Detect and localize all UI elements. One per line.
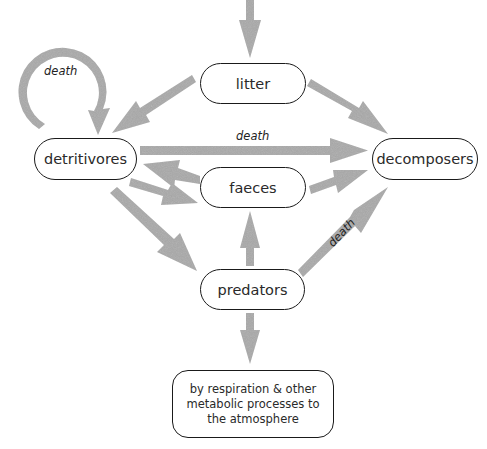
node-decomposers-label: decomposers: [376, 151, 473, 167]
arrow-litter-to-decomposers: [307, 79, 388, 134]
food-web-diagram: litter detritivores faeces decomposers p…: [0, 0, 487, 449]
node-faeces-label: faeces: [229, 180, 276, 196]
arrow-faeces-to-decomposers: [309, 170, 368, 194]
node-predators: predators: [200, 269, 305, 310]
arrow-predators-to-faeces: [240, 211, 260, 266]
arrow-detritivores-self-loop: [19, 48, 110, 135]
label-self-loop-death: death: [44, 64, 77, 78]
label-detritivores-decomposers-death: death: [236, 129, 269, 143]
node-litter: litter: [200, 63, 306, 104]
node-predators-label: predators: [218, 282, 288, 298]
node-atmosphere: by respiration & other metabolic process…: [172, 370, 334, 438]
node-faeces: faeces: [200, 167, 306, 208]
arrow-detritivores-to-faeces: [129, 178, 198, 205]
node-detritivores-label: detritivores: [44, 151, 127, 167]
arrow-litter-to-detritivores: [112, 75, 196, 133]
node-decomposers: decomposers: [372, 138, 478, 180]
arrow-predators-to-atmosphere: [240, 313, 260, 364]
node-litter-label: litter: [236, 76, 270, 92]
arrow-input-to-litter: [239, 0, 261, 58]
node-detritivores: detritivores: [34, 138, 137, 180]
arrow-faeces-to-detritivores: [143, 160, 200, 188]
node-atmosphere-label: by respiration & other metabolic process…: [177, 382, 329, 427]
